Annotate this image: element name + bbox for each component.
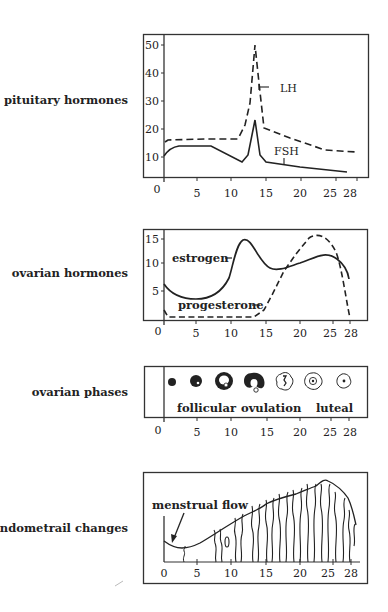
x-ticks: 0 5 10 15 20 25 28 <box>155 320 359 340</box>
y-ticks: 50 40 30 20 10 <box>145 39 164 164</box>
svg-text:20: 20 <box>293 567 307 580</box>
svg-text:10: 10 <box>224 426 238 439</box>
svg-text:28: 28 <box>343 426 357 439</box>
svg-text:5: 5 <box>194 187 201 200</box>
svg-text:5: 5 <box>194 567 201 580</box>
panel-endometrial-changes: 0 5 10 15 20 25 28 <box>144 473 368 584</box>
progesterone-label: progesterone <box>178 298 264 312</box>
follicle-icon-tertiary <box>215 372 233 390</box>
svg-text:5: 5 <box>194 426 201 439</box>
svg-text:15: 15 <box>259 567 273 580</box>
svg-text:25: 25 <box>323 187 337 200</box>
follicle-icons <box>168 372 351 392</box>
svg-text:0: 0 <box>155 424 162 437</box>
svg-text:0: 0 <box>154 183 161 196</box>
phase-label-follicular: follicular <box>177 401 237 415</box>
phase-label-ovulation: ovulation <box>241 401 302 415</box>
svg-text:10: 10 <box>224 567 238 580</box>
svg-text:28: 28 <box>343 187 357 200</box>
y-tick-20: 20 <box>145 123 159 136</box>
svg-text:0: 0 <box>161 567 168 580</box>
svg-text:20: 20 <box>293 426 307 439</box>
stray-mark <box>115 581 123 586</box>
svg-text:0: 0 <box>155 325 162 338</box>
y-tick-10: 10 <box>145 151 159 164</box>
y-tick-40: 40 <box>145 67 159 80</box>
panel-ovarian-hormones: 15 10 5 0 5 10 15 20 25 28 estrogen prog… <box>144 229 368 340</box>
svg-text:25: 25 <box>321 567 335 580</box>
svg-text:15: 15 <box>259 327 273 340</box>
fsh-label: FSH <box>274 145 299 158</box>
y-tick-30: 30 <box>145 95 159 108</box>
y-tick-50: 50 <box>145 39 159 52</box>
svg-text:25: 25 <box>323 426 337 439</box>
menstrual-flow-label: menstrual flow <box>152 498 249 512</box>
y-tick-10: 10 <box>145 257 159 270</box>
x-ticks: 0 5 10 15 20 25 28 <box>155 417 358 439</box>
panel-pituitary-hormones: 50 40 30 20 10 0 5 10 15 20 25 28 <box>144 34 369 200</box>
fsh-curve <box>164 120 347 172</box>
follicle-icon-primary <box>168 378 176 386</box>
y-tick-15: 15 <box>145 233 159 246</box>
svg-text:15: 15 <box>260 426 274 439</box>
svg-text:10: 10 <box>224 327 238 340</box>
svg-text:20: 20 <box>293 187 307 200</box>
svg-text:25: 25 <box>323 327 337 340</box>
panel-ovarian-phases: 0 5 10 15 20 25 28 <box>145 366 368 439</box>
follicle-icon-secondary <box>190 375 202 387</box>
svg-text:20: 20 <box>293 327 307 340</box>
x-ticks: 0 5 10 15 20 25 28 <box>154 177 358 200</box>
lh-curve <box>165 45 356 152</box>
svg-text:15: 15 <box>259 187 273 200</box>
lh-label: LH <box>280 82 297 95</box>
corpus-luteum-icon-mid <box>305 373 322 390</box>
svg-text:10: 10 <box>224 187 238 200</box>
estrogen-curve <box>164 240 349 299</box>
svg-text:28: 28 <box>344 567 358 580</box>
follicle-icon-mature <box>244 373 265 392</box>
arrow-head-icon <box>171 534 177 543</box>
estrogen-label: estrogen <box>172 251 229 265</box>
phase-label-luteal: luteal <box>316 401 354 415</box>
y-tick-5: 5 <box>152 285 159 298</box>
svg-text:28: 28 <box>344 327 358 340</box>
menstrual-flow-arrow <box>174 513 184 538</box>
y-ticks: 15 10 5 <box>145 233 164 298</box>
endometrium-surface <box>164 480 356 548</box>
corpus-luteum-icon-early <box>276 373 293 390</box>
svg-text:5: 5 <box>193 327 200 340</box>
endometrial-glands <box>214 484 355 562</box>
corpus-luteum-icon-late <box>337 374 351 388</box>
